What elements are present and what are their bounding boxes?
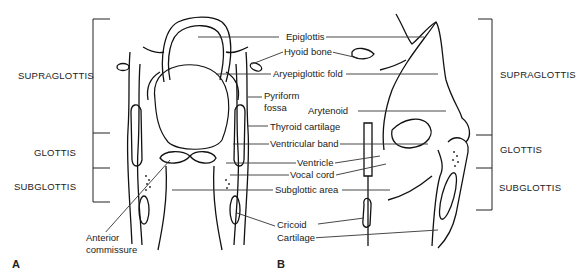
label-subglottic-area: Subglottic area bbox=[274, 184, 339, 195]
region-label-glottis-left: GLOTTIS bbox=[34, 147, 76, 158]
coronal-view bbox=[117, 17, 263, 250]
region-label-subglottis-left: SUBGLOTTIS bbox=[14, 181, 76, 192]
label-pyriform: Pyriform bbox=[263, 90, 300, 101]
left-region-brackets bbox=[93, 19, 110, 202]
label-arytenoid: Arytenoid bbox=[307, 105, 349, 116]
region-label-subglottis-right: SUBGLOTTIS bbox=[499, 182, 561, 193]
panel-label-b: B bbox=[277, 258, 285, 270]
label-commissure: commissure bbox=[85, 244, 138, 255]
region-label-glottis-right: GLOTTIS bbox=[500, 144, 542, 155]
label-fossa: fossa bbox=[263, 102, 288, 113]
sagittal-view bbox=[352, 14, 469, 248]
label-ventricular-band: Ventricular band bbox=[269, 138, 340, 149]
label-hyoid-bone: Hyoid bone bbox=[283, 46, 333, 57]
label-aryepiglottic-fold: Aryepiglottic fold bbox=[272, 68, 344, 79]
region-label-supraglottis-right: SUPRAGLOTTIS bbox=[500, 69, 576, 80]
larynx-diagram: SUPRAGLOTTIS GLOTTIS SUBGLOTTIS SUPRAGLO… bbox=[0, 0, 582, 278]
label-cricoid: Cricoid bbox=[276, 219, 308, 230]
label-ventricle: Ventricle bbox=[296, 157, 334, 168]
label-vocal-cord: Vocal cord bbox=[289, 169, 335, 180]
label-anterior: Anterior bbox=[85, 232, 120, 243]
right-region-brackets bbox=[476, 19, 492, 210]
label-epiglottis: Epiglottis bbox=[285, 31, 326, 42]
panel-label-a: A bbox=[12, 258, 20, 270]
label-thyroid-cartilage: Thyroid cartilage bbox=[269, 121, 341, 132]
label-cartilage: Cartilage bbox=[276, 232, 316, 243]
region-label-supraglottis-left: SUPRAGLOTTIS bbox=[18, 70, 94, 81]
